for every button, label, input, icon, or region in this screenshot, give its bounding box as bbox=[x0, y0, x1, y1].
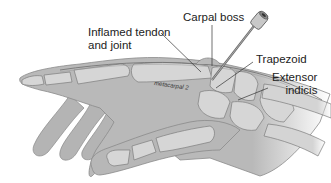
label-inflamed-tendon: Inflamed tendon and joint bbox=[88, 26, 170, 52]
label-carpal-boss: Carpal boss bbox=[183, 11, 244, 24]
label-extensor-line1: Extensor bbox=[272, 71, 317, 84]
label-extensor-indicis: Extensor indicis bbox=[272, 71, 317, 97]
label-inflamed-line2: and joint bbox=[88, 39, 170, 52]
label-inflamed-line1: Inflamed tendon bbox=[88, 26, 170, 39]
label-trapezoid: Trapezoid bbox=[256, 53, 307, 66]
carpal-boss-bump bbox=[196, 58, 220, 64]
label-extensor-line2: indicis bbox=[272, 84, 317, 97]
hand-anatomy-diagram: Inflamed tendon and joint Carpal boss Tr… bbox=[0, 0, 331, 183]
